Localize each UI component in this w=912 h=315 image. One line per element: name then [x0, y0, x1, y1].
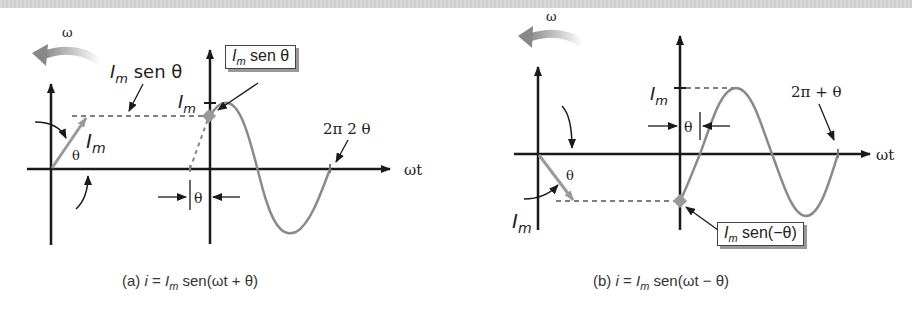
period-label: 2π 2 θ	[323, 120, 371, 138]
period-label: 2π + θ	[791, 83, 842, 101]
caption-b: (b) i = Im sen(ωt − θ)	[593, 272, 729, 292]
box-label-b: Im sen(−θ)	[717, 222, 804, 246]
omega-label: ω	[546, 9, 557, 24]
axis-label: ωt	[876, 146, 894, 164]
peak-label: Im	[178, 91, 196, 116]
phasor-arrow	[52, 118, 86, 168]
axis-label: ωt	[404, 161, 422, 179]
phasor-label: Im	[512, 209, 532, 236]
panel-b: ω θ Im Im θ 2π + θ ωt	[512, 9, 894, 236]
shift-label: θ	[194, 190, 202, 206]
projection-pointer	[129, 84, 143, 111]
phasor-label: Im	[86, 129, 106, 156]
curved-pointer-lower	[524, 185, 558, 199]
curved-pointer-lower	[76, 176, 88, 209]
period-pointer	[819, 104, 834, 140]
caption-a: (a) i = Im sen(ωt + θ)	[122, 272, 258, 292]
omega-label: ω	[62, 25, 73, 40]
box-pointer	[686, 207, 718, 230]
theta-angle-label: θ	[72, 148, 80, 163]
start-marker	[673, 194, 687, 208]
curved-pointer-upper	[562, 106, 572, 148]
projection-label: Im sen θ	[110, 61, 182, 86]
theta-angle-label: θ	[566, 168, 574, 183]
diagram-canvas: ω Im θ Im sen θ Im θ 2π 2 θ ωt	[0, 0, 912, 315]
shifted-start-dotted	[190, 116, 209, 169]
peak-label: Im	[650, 83, 668, 108]
box-label-a: Im sen θ	[225, 45, 296, 69]
sine-wave	[680, 88, 838, 216]
rotation-arrow-icon	[32, 44, 100, 66]
period-pointer	[336, 140, 348, 162]
shift-label: θ	[684, 119, 692, 135]
box-pointer	[218, 83, 258, 110]
rotation-arrow-icon	[518, 26, 583, 48]
